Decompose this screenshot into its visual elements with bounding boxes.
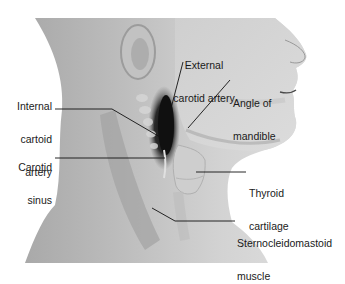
label-line: Angle of	[233, 98, 276, 109]
label-sternocleidomastoid-muscle: Sternocleidomastoid muscle	[237, 216, 332, 284]
label-line: Thyroid	[249, 188, 289, 199]
label-line: mandible	[233, 131, 276, 142]
label-line: Carotid	[0, 162, 52, 173]
label-line: muscle	[237, 271, 332, 282]
label-angle-of-mandible: Angle of mandible	[233, 76, 276, 164]
label-line: Sternocleidomastoid	[237, 238, 332, 249]
label-line: sinus	[0, 195, 52, 206]
label-carotid-sinus: Carotid sinus	[0, 140, 52, 228]
label-external-carotid-artery: External carotid artery	[164, 38, 244, 126]
label-line: carotid artery	[164, 93, 244, 104]
label-line: Internal	[0, 101, 52, 112]
label-line: External	[164, 60, 244, 71]
